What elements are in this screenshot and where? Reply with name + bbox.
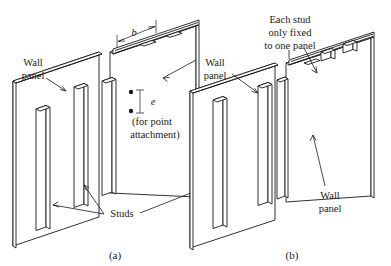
label-dimension-b: b	[131, 27, 136, 38]
label-each-stud-line2: only fixed	[269, 27, 313, 38]
label-each-stud-line3: to one panel	[264, 40, 315, 51]
label-dimension-e: e	[151, 96, 156, 107]
label-wall-panel-b-upper-line2: panel	[204, 70, 227, 81]
label-point-attachment-line2: attachment)	[130, 129, 180, 141]
label-wall-panel-a-line2: panel	[22, 70, 45, 81]
label-wall-panel-a-line1: Wall	[23, 57, 43, 68]
caption-b: (b)	[286, 249, 299, 262]
label-point-attachment-line1: (for point	[132, 116, 172, 128]
label-each-stud-line1: Each stud	[269, 14, 311, 25]
wall-panel-isometric-diagram: Wall panel b e (for point attachment) St…	[0, 0, 391, 266]
caption-a: (a)	[109, 249, 122, 262]
stud-b-2	[258, 83, 272, 206]
figure-container: Wall panel b e (for point attachment) St…	[0, 0, 391, 266]
label-wall-panel-b-lower-line2: panel	[319, 203, 342, 214]
attachment-point-lower-dot	[129, 109, 133, 113]
stud-b-3	[277, 77, 288, 199]
label-wall-panel-b-lower-line1: Wall	[320, 190, 340, 201]
stud-a-3	[102, 78, 116, 196]
stud-b-1	[213, 97, 227, 229]
label-wall-panel-b-upper-line1: Wall	[205, 57, 225, 68]
stud-a-1	[36, 106, 50, 231]
label-studs-a: Studs	[110, 208, 133, 219]
attachment-point-upper-dot	[129, 90, 133, 94]
panel-a-front-wall-panel	[13, 52, 102, 248]
